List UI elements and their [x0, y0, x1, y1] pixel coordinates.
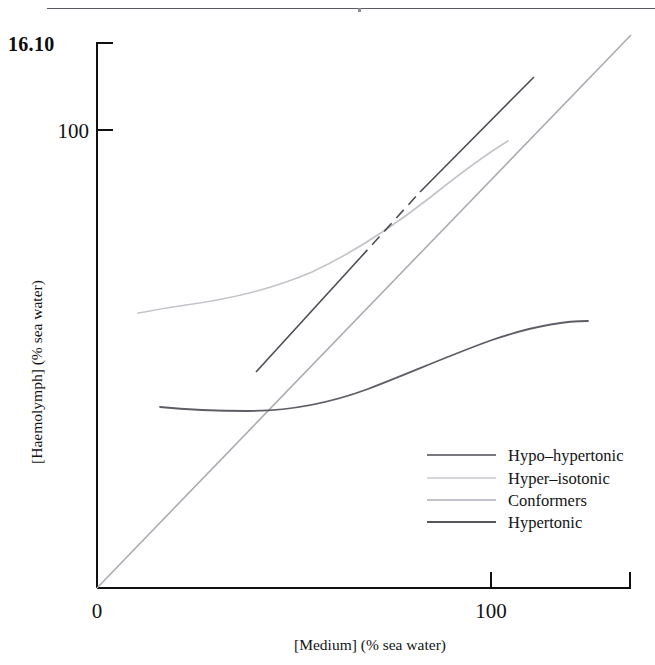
x-axis-title: [Medium] (% sea water) [294, 636, 446, 654]
y-axis-title: [Haemolymph] (% sea water) [28, 280, 46, 464]
x-tick-label-100: 100 [475, 599, 507, 623]
legend-label-hypo-hypertonic: Hypo–hypertonic [508, 446, 623, 465]
chart-canvas: 100 0 100 [Medium] (% sea water) [Haemol… [0, 0, 655, 665]
legend-label-hyper-isotonic: Hyper–isotonic [508, 469, 610, 488]
legend-label-conformers: Conformers [508, 491, 587, 510]
chart-legend: Hypo–hypertonic Hyper–isotonic Conformer… [427, 446, 623, 532]
y-tick-label-100: 100 [58, 119, 90, 143]
figure-page: 16.10 100 0 100 [Medium] (% sea water) [… [0, 0, 655, 665]
series-line-hyper-isotonic [138, 141, 508, 313]
series-line-hypertonic [160, 321, 588, 411]
series-line-hypo-hypertonic-solid [256, 258, 360, 372]
series-line-hypo-hypertonic-upper [420, 77, 534, 192]
series-line-hypo-hypertonic-dashed [360, 192, 420, 258]
x-tick-label-0: 0 [92, 599, 103, 623]
legend-label-hypertonic: Hypertonic [508, 513, 582, 532]
